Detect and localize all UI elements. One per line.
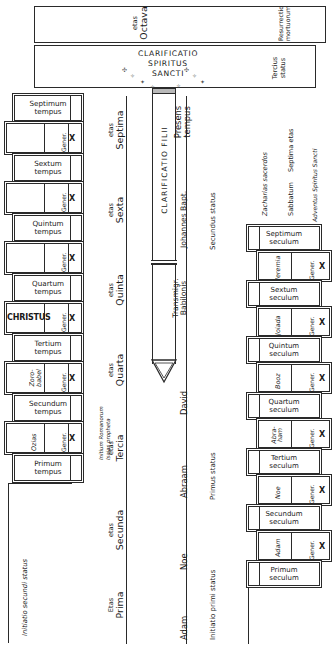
event-abraam: Abraam (180, 465, 189, 498)
seculum-box[interactable]: Sextum seculum (246, 280, 322, 308)
gener-label: Gener. (61, 192, 67, 212)
gener-count: X (69, 254, 75, 263)
tempus-label: Quartum tempus (13, 280, 83, 297)
flourish-icon: ✦ (200, 78, 205, 85)
seculum-box[interactable]: Secundum seculum (246, 504, 322, 532)
css-line-1: CLARIFICATIO (138, 49, 198, 58)
gener-box-zorobabel[interactable]: Zoro-babel Gener. X (4, 361, 84, 395)
generation-person-label: Adam (275, 538, 282, 557)
seculum-label: Septimum seculum (247, 230, 321, 247)
resurrectio-mortuorum-label: Resurrectio mortuorum (278, 7, 292, 41)
seculum-ordinal: Secundum (265, 510, 302, 518)
tempus-label: Quintum tempus (13, 220, 83, 237)
seculum-unit: seculum (269, 518, 298, 526)
clarificatio-filii-label: CLARIFICATIO FILII (160, 126, 169, 213)
gener-box[interactable]: Abra-ham Gener. X (256, 418, 332, 450)
generation-person-label: Abra-ham (271, 421, 284, 449)
gener-box[interactable]: Noe Gener. X (256, 474, 332, 506)
seculum-box[interactable]: Tertium seculum (246, 448, 322, 476)
tempus-box[interactable]: Tertium tempus (12, 333, 84, 363)
seculum-box[interactable]: Primum seculum (246, 560, 322, 588)
seculum-box[interactable]: Septimum seculum (246, 224, 322, 252)
tempus-box[interactable]: Primum tempus (12, 453, 84, 483)
vessel-band (151, 260, 177, 265)
gener-box-ozias[interactable]: Ozias Gener. X (4, 421, 84, 455)
seculum-unit: seculum (269, 406, 298, 414)
etas-sexta: etas Sexta (108, 180, 126, 240)
tempus-box[interactable]: Septimum tempus (12, 93, 84, 123)
etas-quinta: etas Quinta (108, 260, 126, 320)
seculum-label: Secundum seculum (247, 510, 321, 527)
initiatio-primi-status-label: Initiatio primi status (210, 570, 218, 640)
generation-person-label: Jeremia (275, 256, 282, 280)
gener-label: Gener. (61, 312, 67, 332)
seculum-ordinal: Tertium (271, 454, 297, 462)
event-noe: Noe (180, 553, 189, 570)
gener-count: X (319, 430, 325, 439)
seculum-ordinal: Quintum (269, 342, 299, 350)
etas-prima: Etas Prima (108, 580, 126, 630)
flourish-icon: ✧ (192, 72, 197, 79)
tempus-box[interactable]: Quintum tempus (12, 213, 84, 243)
gener-count: X (69, 434, 75, 443)
tempus-label: Primum tempus (13, 460, 83, 477)
gener-count: X (319, 262, 325, 271)
seculum-unit: seculum (269, 574, 298, 582)
flourish-icon: ✣ (122, 66, 127, 73)
gener-box[interactable]: Jeremia Gener. X (256, 250, 332, 282)
left-bracket (8, 483, 72, 643)
seculum-label: Sextum seculum (247, 286, 321, 303)
tempus-unit: tempus (34, 107, 61, 116)
gener-label: Gener. (309, 316, 315, 336)
gener-box[interactable]: Adam Gener. X (256, 530, 332, 562)
flourish-icon: ✣ (184, 66, 189, 73)
gener-box[interactable]: Gener. X (4, 181, 84, 215)
tempus-label: Secundum tempus (13, 400, 83, 417)
tempus-unit: tempus (34, 287, 61, 296)
gener-count: X (69, 134, 75, 143)
gener-box[interactable]: Gener. X (4, 241, 84, 275)
banner-octava-big: Octava (139, 6, 149, 40)
etas-big: Septima (115, 100, 125, 160)
gener-label: Gener. (61, 132, 67, 152)
gener-label: Gener. (309, 260, 315, 280)
generation-person-label: Ozias (31, 434, 38, 451)
css-line-3: SANCTI (152, 69, 184, 78)
seculum-box[interactable]: Quartum seculum (246, 392, 322, 420)
gener-box[interactable]: Joiada Gener. X (256, 306, 332, 338)
seculum-unit: seculum (269, 294, 298, 302)
tempus-box[interactable]: Quartum tempus (12, 273, 84, 303)
tempus-label: Septimum tempus (13, 100, 83, 117)
seculum-unit: seculum (269, 238, 298, 246)
gener-label: Gener. (309, 484, 315, 504)
tercius-status-label: Tercius status (272, 48, 287, 88)
etas-big: Quinta (115, 260, 125, 320)
event-presens-tempus: Presens tempus (174, 94, 192, 150)
seculum-label: Quintum seculum (247, 342, 321, 359)
tempus-unit: tempus (34, 347, 61, 356)
generation-person-label: Noe (275, 486, 282, 499)
tempus-box[interactable]: Secundum tempus (12, 393, 84, 423)
gener-label: Gener. (309, 372, 315, 392)
tempus-box[interactable]: Sextum tempus (12, 153, 84, 183)
seculum-ordinal: Quartum (268, 398, 299, 406)
gener-box[interactable]: Booz Gener. X (256, 362, 332, 394)
event-transmigratio-babilonis: Transmigr. Babilonis (172, 268, 188, 328)
tempus-label: Tertium tempus (13, 340, 83, 357)
seculum-label: Tertium seculum (247, 454, 321, 471)
gener-count: X (319, 374, 325, 383)
etas-septima: etas Septima (108, 100, 126, 160)
generation-person-label: Joiada (275, 316, 282, 335)
tempus-unit: tempus (34, 407, 61, 416)
gener-box-christus[interactable]: CHRISTUS Gener. X (4, 301, 84, 335)
seculum-box[interactable]: Quintum seculum (246, 336, 322, 364)
seculum-label: Quartum seculum (247, 398, 321, 415)
diagram-canvas: etas Octava Resurrectio mortuorum CLARIF… (0, 0, 332, 651)
gener-box[interactable]: Gener. X (4, 121, 84, 155)
gener-label: Gener. (61, 372, 67, 392)
seculum-unit: seculum (269, 462, 298, 470)
etas-quarta: etas Quarta (108, 340, 126, 400)
tempus-unit: tempus (34, 227, 61, 236)
initiatio-secundi-status-label: Initiatio secundi status (22, 559, 29, 636)
banner-octava-label: etas Octava (132, 6, 150, 40)
